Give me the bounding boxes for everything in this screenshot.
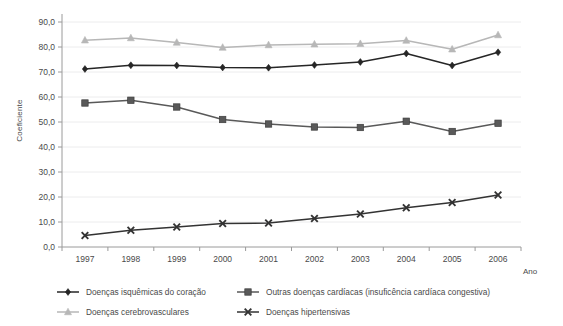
series-3	[81, 31, 501, 52]
x-tick-label: 2003	[351, 254, 370, 264]
legend-label: Outras doenças cardíacas (insuficência c…	[266, 287, 490, 297]
data-point-square	[495, 120, 501, 126]
data-point-triangle	[495, 31, 502, 38]
data-point-diamond	[312, 62, 317, 69]
legend-label: Doenças cerebrovasculares	[86, 307, 189, 317]
data-point-diamond	[65, 289, 70, 296]
legend-item: Doenças hipertensivas	[237, 307, 350, 317]
y-tick-label: 40,0	[38, 142, 55, 152]
legend: Doenças isquêmicas do coraçãoOutras doen…	[57, 287, 490, 317]
data-point-square	[449, 128, 455, 134]
data-point-diamond	[358, 59, 363, 66]
y-axis: 0,010,020,030,040,050,060,070,080,090,0	[38, 14, 62, 252]
chart-container: Coeficiente 0,010,020,030,040,050,060,07…	[0, 0, 563, 326]
legend-label: Doenças hipertensivas	[266, 307, 350, 317]
data-point-diamond	[174, 62, 179, 69]
x-axis-title: Ano	[523, 267, 538, 276]
data-point-square	[174, 104, 180, 110]
data-point-diamond	[220, 64, 225, 71]
legend-item: Outras doenças cardíacas (insuficência c…	[237, 287, 490, 297]
x-tick-label: 2005	[443, 254, 462, 264]
data-point-square	[128, 97, 134, 103]
x-tick-label: 2000	[213, 254, 232, 264]
x-tick-label: 1998	[121, 254, 140, 264]
x-tick-label: 2006	[489, 254, 508, 264]
data-point-square	[82, 100, 88, 106]
data-point-diamond	[449, 62, 454, 69]
series-4	[82, 192, 502, 239]
series-line	[85, 195, 498, 236]
y-tick-label: 10,0	[38, 217, 55, 227]
y-tick-label: 30,0	[38, 167, 55, 177]
legend-item: Doenças cerebrovasculares	[57, 307, 189, 317]
legend-item: Doenças isquêmicas do coração	[57, 287, 206, 297]
data-point-square	[219, 116, 225, 122]
y-tick-label: 80,0	[38, 42, 55, 52]
y-tick-label: 0,0	[43, 242, 55, 252]
series-line	[85, 100, 498, 131]
x-tick-label: 1999	[167, 254, 186, 264]
data-point-square	[311, 124, 317, 130]
x-tick-label: 2002	[305, 254, 324, 264]
data-point-diamond	[404, 50, 409, 57]
data-point-square	[265, 121, 271, 127]
y-tick-label: 90,0	[38, 17, 55, 27]
data-point-square	[357, 124, 363, 130]
x-tick-label: 1997	[75, 254, 94, 264]
x-tick-label: 2001	[259, 254, 278, 264]
x-tick-label: 2004	[397, 254, 416, 264]
line-chart-plot: 0,010,020,030,040,050,060,070,080,090,01…	[0, 0, 563, 326]
series-2	[82, 97, 502, 135]
y-tick-label: 60,0	[38, 92, 55, 102]
y-tick-label: 20,0	[38, 192, 55, 202]
series-line	[85, 52, 498, 69]
y-tick-label: 70,0	[38, 67, 55, 77]
x-axis: 1997199819992000200120022003200420052006…	[62, 247, 538, 276]
series-1	[82, 49, 500, 73]
data-point-square	[403, 118, 409, 124]
data-point-square	[245, 289, 251, 295]
data-point-diamond	[495, 49, 500, 56]
legend-label: Doenças isquêmicas do coração	[86, 287, 206, 297]
data-point-diamond	[128, 62, 133, 69]
data-point-diamond	[82, 66, 87, 73]
data-point-diamond	[266, 64, 271, 71]
y-tick-label: 50,0	[38, 117, 55, 127]
